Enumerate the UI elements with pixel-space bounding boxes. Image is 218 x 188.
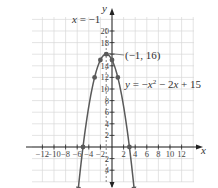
x-tick-label: 2 (121, 149, 125, 159)
x-tick-label: 10 (166, 149, 175, 159)
parabola-chart: −12−10−8−6−4−2246810122018141210864224 y… (0, 0, 218, 188)
data-point (92, 75, 97, 80)
x-tick-label: 6 (145, 149, 149, 159)
y-tick-label: 8 (105, 96, 109, 106)
equation-label: y = −x2 − 2x + 15 (124, 78, 202, 90)
vertex-label: (−1, 16) (125, 49, 161, 62)
data-point (98, 58, 103, 63)
y-tick-label: 6 (105, 107, 109, 117)
x-tick-label: −10 (47, 149, 60, 159)
y-tick-label: 2 (105, 154, 109, 164)
y-tick-label: 14 (101, 61, 110, 71)
x-tick-label: 12 (177, 149, 186, 159)
x-tick-label: 8 (156, 149, 160, 159)
y-tick-label: 2 (105, 130, 109, 140)
data-point (81, 145, 86, 150)
x-axis-label: x (200, 144, 206, 156)
y-axis-label: y (101, 2, 107, 14)
data-point (110, 58, 115, 63)
y-tick-label: 20 (101, 26, 110, 36)
y-tick-label: 18 (101, 38, 110, 48)
x-tick-label: −8 (61, 149, 70, 159)
y-tick-label: 12 (101, 72, 110, 82)
axis-of-symmetry-label: x = −1 (71, 13, 100, 25)
y-tick-label: 10 (101, 84, 110, 94)
data-point (115, 75, 120, 80)
curve-arrows (76, 186, 136, 188)
axes (26, 8, 203, 188)
y-axis-arrow-icon (110, 8, 115, 15)
data-point (127, 145, 132, 150)
x-tick-label: −2 (96, 149, 105, 159)
data-point (104, 52, 109, 57)
y-axis-down-arrow-icon (110, 182, 115, 188)
x-tick-label: 4 (133, 149, 138, 159)
x-tick-label: −6 (73, 149, 82, 159)
x-tick-label: −4 (84, 149, 94, 159)
